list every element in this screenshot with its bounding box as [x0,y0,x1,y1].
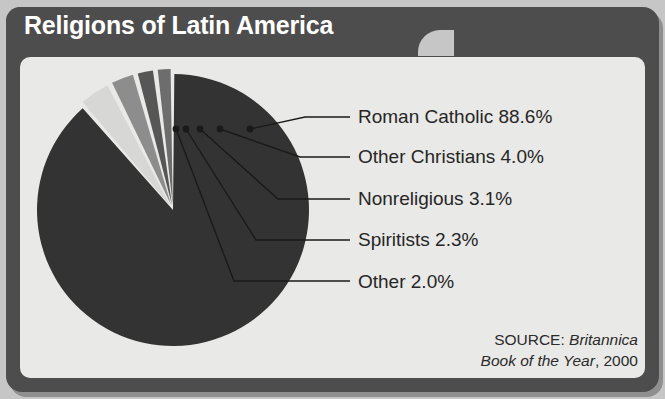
callout-label-nonreligious: Nonreligious 3.1% [358,188,512,210]
source-suffix: , 2000 [595,352,638,369]
callout-label-spiritists: Spiritists 2.3% [358,229,478,251]
source-line-2: Book of the Year, 2000 [481,352,638,370]
source-prefix: SOURCE: [494,331,569,348]
callout-label-other: Other 2.0% [358,271,454,293]
source-italic-2: Book of the Year [481,352,595,369]
page-title: Religions of Latin America [24,11,333,40]
source-line-1: SOURCE: Britannica [494,331,638,349]
source-italic-1: Britannica [569,331,638,348]
callout-label-other-christians: Other Christians 4.0% [358,146,544,168]
callout-label-roman-catholic: Roman Catholic 88.6% [358,106,552,128]
title-tab-curve [418,30,454,56]
chart-figure: Religions of Latin America Roman Catholi… [0,0,665,399]
